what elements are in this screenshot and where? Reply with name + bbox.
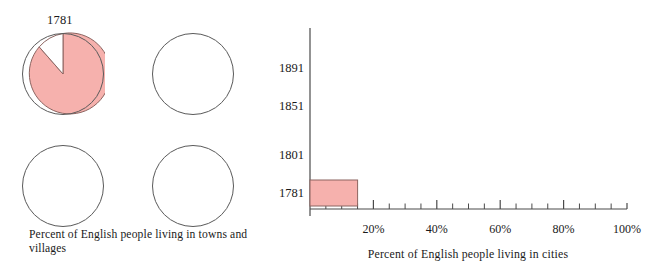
bar-1781 [310, 180, 358, 206]
y-tick-label-1781: 1781 [279, 186, 304, 200]
x-axis-minor-ticks [326, 204, 611, 210]
pie-outline-circle [153, 34, 234, 115]
x-tick-label-40: 40% [426, 222, 448, 236]
pie-1781-svg [21, 32, 105, 116]
pie-outline-circle [23, 146, 104, 227]
pie-chart-2 [151, 32, 235, 116]
pie-4-svg [151, 144, 235, 228]
x-tick-label-100: 100% [613, 222, 641, 236]
bar-chart-svg: 20% 40% 60% 80% 100% 1891 1851 1801 1781… [270, 0, 664, 279]
pie-chart-panel: 1781 Per [0, 0, 270, 279]
x-tick-label-60: 60% [489, 222, 511, 236]
figure-root: 1781 Per [0, 0, 664, 279]
pie-chart-1781 [21, 32, 105, 116]
y-tick-label-1891: 1891 [279, 61, 304, 75]
pie-chart-3 [21, 144, 105, 228]
pie-3-svg [21, 144, 105, 228]
pie-2-svg [151, 32, 235, 116]
pie-year-label-1781: 1781 [47, 13, 73, 28]
x-axis-title: Percent of English people living in citi… [368, 247, 569, 261]
x-tick-label-80: 80% [553, 222, 575, 236]
pie-panel-caption: Percent of English people living in town… [29, 228, 257, 255]
x-tick-label-20: 20% [362, 222, 384, 236]
y-tick-label-1801: 1801 [279, 148, 304, 162]
pie-outline-circle [153, 146, 234, 227]
pie-chart-4 [151, 144, 235, 228]
y-tick-label-1851: 1851 [279, 99, 304, 113]
bar-chart-panel: 20% 40% 60% 80% 100% 1891 1851 1801 1781… [270, 0, 664, 279]
